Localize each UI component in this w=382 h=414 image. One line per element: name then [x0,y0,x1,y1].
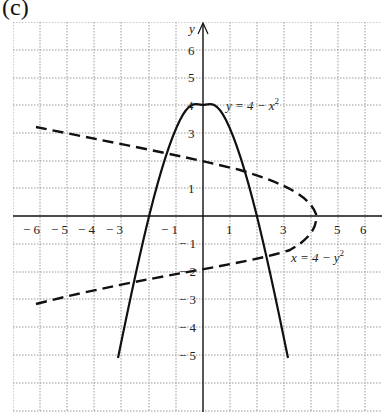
x-tick: − 3 [106,222,123,237]
y-tick: 5 [188,70,195,85]
x-tick: − 5 [51,222,68,237]
graph: y − 6 − 5 − 4 − 3 − 1 1 3 5 6 6 5 4 3 1 … [0,0,382,414]
y-axis-label: y [187,21,195,36]
y-tick: − 5 [179,348,196,363]
y-tick: − 2 [179,264,196,279]
x-tick: 5 [334,222,341,237]
x-tick: − 1 [161,222,178,237]
x-tick: 3 [280,222,287,237]
x-tick: 6 [360,222,367,237]
x-tick: 1 [226,222,233,237]
y-tick: 4 [187,98,194,113]
y-tick: 6 [188,43,195,58]
y-tick: − 1 [179,236,196,251]
y-tick: − 4 [179,320,197,335]
equation-label-y: y = 4 − x2 [224,96,279,113]
y-tick: − 3 [179,292,196,307]
x-tick: − 6 [23,222,41,237]
equation-label-x: x = 4 − y2 [290,248,344,265]
grid [13,22,382,412]
x-tick: − 4 [78,222,96,237]
y-tick: 3 [188,126,195,141]
y-tick: 1 [188,181,195,196]
